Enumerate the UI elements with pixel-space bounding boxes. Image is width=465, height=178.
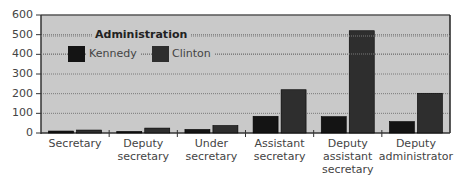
legend-swatch-kennedy xyxy=(68,46,85,62)
bar-clinton xyxy=(417,93,442,133)
y-tick-label: 400 xyxy=(3,47,33,60)
y-tick-label: 500 xyxy=(3,28,33,41)
bar-clinton xyxy=(213,126,238,133)
bar-kennedy xyxy=(321,117,346,133)
bar-clinton xyxy=(281,90,306,133)
bar-kennedy xyxy=(49,131,74,133)
legend-title: Administration xyxy=(92,28,190,41)
bar-clinton xyxy=(77,130,102,133)
y-tick-label: 300 xyxy=(3,67,33,80)
y-tick-label: 200 xyxy=(3,87,33,100)
bar-kennedy xyxy=(253,116,278,133)
bar-kennedy xyxy=(185,129,210,133)
bar-clinton xyxy=(145,128,170,133)
category-label: Deputyadministrator xyxy=(376,137,456,163)
y-tick-label: 100 xyxy=(3,106,33,119)
legend-label-kennedy: Kennedy xyxy=(86,47,140,60)
bar-kennedy xyxy=(389,122,414,133)
legend-swatch-clinton xyxy=(152,46,169,62)
y-tick-label: 0 xyxy=(3,126,33,139)
bar-kennedy xyxy=(117,131,142,133)
y-tick-label: 600 xyxy=(3,8,33,21)
bar-clinton xyxy=(349,31,374,133)
legend-label-clinton: Clinton xyxy=(169,47,214,60)
